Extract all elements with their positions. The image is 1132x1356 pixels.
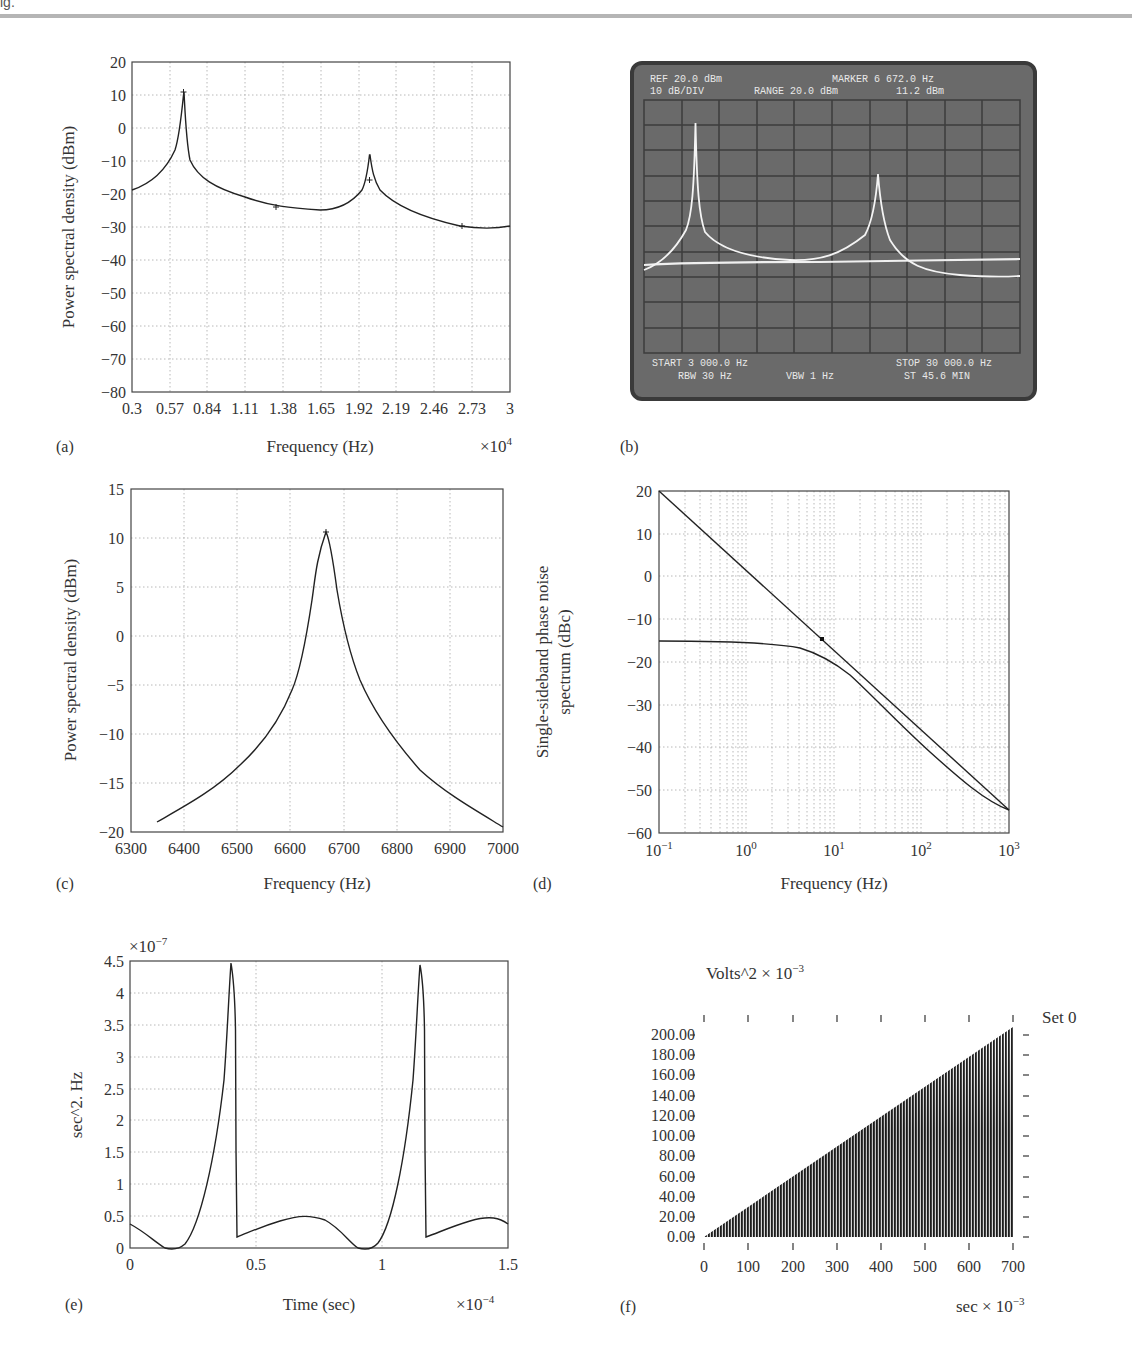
svg-text:5: 5 [116,579,124,596]
panel-e-yticks: 4.5 4 3.5 3 2.5 2 1.5 1 0.5 0 [104,953,124,1257]
svg-text:180.00: 180.00 [651,1046,695,1063]
svg-text:10: 10 [110,87,126,104]
svg-text:10−1: 10−1 [645,839,673,859]
svg-text:103: 103 [998,839,1020,859]
svg-text:RANGE 20.0 dBm: RANGE 20.0 dBm [754,86,838,97]
svg-text:0.5: 0.5 [246,1256,266,1273]
svg-text:−20: −20 [101,186,126,203]
svg-text:−20: −20 [627,654,652,671]
panel-a-xlabel: Frequency (Hz) [266,437,373,456]
panel-d-corner-marker [820,637,824,641]
svg-text:20: 20 [636,483,652,500]
panel-a-grid [132,62,510,392]
panel-f: 200.00 180.00 160.00 140.00 120.00 100.0… [620,962,1076,1316]
svg-text:20.00: 20.00 [659,1208,695,1225]
svg-text:RBW 30 Hz: RBW 30 Hz [678,371,732,382]
svg-text:2: 2 [116,1112,124,1129]
svg-text:−60: −60 [101,318,126,335]
panel-f-label: (f) [620,1298,636,1316]
svg-text:0: 0 [700,1258,708,1275]
panel-e-curve [130,963,508,1249]
svg-text:1: 1 [378,1256,386,1273]
svg-text:10: 10 [636,526,652,543]
svg-text:101: 101 [823,839,845,859]
svg-text:10 dB/DIV: 10 dB/DIV [650,86,704,97]
panel-f-title: Volts^2 × 10−3 [706,962,804,983]
svg-text:−70: −70 [101,351,126,368]
svg-text:1.5: 1.5 [498,1256,518,1273]
panel-a: 20 10 0 −10 −20 −30 −40 −50 −60 −70 −80 … [56,54,514,456]
svg-text:3.5: 3.5 [104,1017,124,1034]
svg-text:START 3 000.0 Hz: START 3 000.0 Hz [652,358,748,369]
panel-a-xmult: ×104 [480,435,513,456]
svg-text:700: 700 [1001,1258,1025,1275]
panel-e: 4.5 4 3.5 3 2.5 2 1.5 1 0.5 0 0 0.5 1 1.… [65,935,518,1314]
svg-text:−80: −80 [101,384,126,401]
panel-f-xticks: 0 100 200 300 400 500 600 700 [700,1258,1025,1275]
panel-c-ylabel: Power spectral density (dBm) [61,559,80,762]
svg-text:0.57: 0.57 [156,400,184,417]
panel-c-yticks: 15 10 5 0 −5 −10 −15 −20 [99,481,124,841]
svg-text:7000: 7000 [487,840,519,857]
svg-text:−10: −10 [101,153,126,170]
svg-text:1: 1 [116,1176,124,1193]
panel-c: 15 10 5 0 −5 −10 −15 −20 6300 6400 6500 … [56,481,519,893]
svg-text:6300: 6300 [115,840,147,857]
svg-text:1.38: 1.38 [269,400,297,417]
svg-text:6800: 6800 [381,840,413,857]
panel-a-psd-curve [132,92,510,228]
panel-a-yticks: 20 10 0 −10 −20 −30 −40 −50 −60 −70 −80 [101,54,126,401]
svg-text:100.00: 100.00 [651,1127,695,1144]
svg-text:6500: 6500 [221,840,253,857]
panel-d-xticks: 10−1 100 101 102 103 [645,839,1020,859]
svg-text:15: 15 [108,481,124,498]
svg-text:6700: 6700 [328,840,360,857]
svg-text:4: 4 [116,985,124,1002]
panel-f-yticks: 200.00 180.00 160.00 140.00 120.00 100.0… [651,1026,695,1245]
svg-text:120.00: 120.00 [651,1107,695,1124]
panel-c-peak-marker [323,529,329,535]
svg-text:−15: −15 [99,775,124,792]
svg-text:200: 200 [781,1258,805,1275]
panel-c-xticks: 6300 6400 6500 6600 6700 6800 6900 7000 [115,840,519,857]
svg-text:2.19: 2.19 [382,400,410,417]
panel-d-grid [659,491,1009,833]
panel-a-label: (a) [56,438,74,456]
svg-text:VBW 1 Hz: VBW 1 Hz [786,371,834,382]
panel-c-grid [131,489,503,832]
svg-text:0: 0 [116,1240,124,1257]
panel-e-axes [130,961,508,1248]
panel-a-ylabel: Power spectral density (dBm) [59,126,78,329]
panel-d-label: (d) [533,875,552,893]
scope-screen [632,63,1035,399]
panel-b-label: (b) [620,438,639,456]
svg-text:4.5: 4.5 [104,953,124,970]
panel-a-xticks: 0.3 0.57 0.84 1.11 1.38 1.65 1.92 2.19 2… [122,400,514,417]
svg-text:20: 20 [110,54,126,71]
svg-text:600: 600 [957,1258,981,1275]
svg-text:80.00: 80.00 [659,1147,695,1164]
svg-text:0: 0 [116,628,124,645]
panel-e-ymult: ×10−7 [129,935,168,956]
panel-c-xlabel: Frequency (Hz) [263,874,370,893]
svg-text:1.92: 1.92 [345,400,373,417]
svg-text:2.46: 2.46 [420,400,448,417]
svg-text:MARKER 6 672.0 Hz: MARKER 6 672.0 Hz [832,74,934,85]
svg-text:STOP 30 000.0 Hz: STOP 30 000.0 Hz [896,358,992,369]
svg-text:11.2 dBm: 11.2 dBm [896,86,944,97]
svg-text:200.00: 200.00 [651,1026,695,1043]
svg-text:−10: −10 [99,726,124,743]
figure-canvas: 20 10 0 −10 −20 −30 −40 −50 −60 −70 −80 … [0,0,1132,1356]
svg-text:40.00: 40.00 [659,1188,695,1205]
svg-text:−60: −60 [627,825,652,842]
panel-b: REF 20.0 dBm 10 dB/DIV RANGE 20.0 dBm MA… [620,63,1035,456]
panel-e-xlabel: Time (sec) [283,1295,356,1314]
panel-c-axes [131,489,503,832]
panel-e-ylabel: sec^2. Hz [67,1071,86,1138]
svg-text:1.65: 1.65 [307,400,335,417]
panel-e-xticks: 0 0.5 1 1.5 [126,1256,518,1273]
svg-text:−40: −40 [627,739,652,756]
panel-c-label: (c) [56,875,74,893]
svg-text:160.00: 160.00 [651,1066,695,1083]
panel-d-asymptote-line [659,491,1009,810]
